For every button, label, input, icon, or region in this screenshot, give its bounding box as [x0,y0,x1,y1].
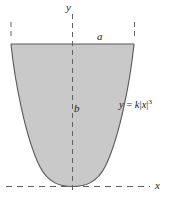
x-axis-label: x [155,180,160,191]
figure-container: y x a b y = k|x|3 [0,0,176,207]
curve-equation-label: y = k|x|3 [119,100,152,111]
width-dimension-label-a: a [97,31,103,42]
height-dimension-label-b: b [74,103,80,114]
y-axis-label: y [66,2,71,13]
equation-exponent: 3 [148,98,152,106]
